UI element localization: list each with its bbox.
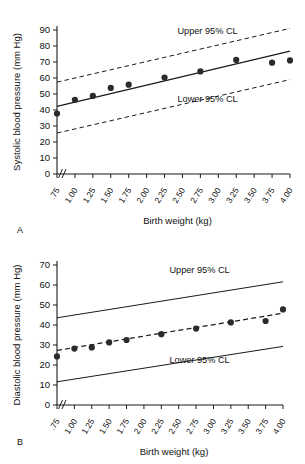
y-tick-label: 60	[39, 279, 50, 290]
y-tick-label: 50	[39, 299, 50, 310]
data-point	[158, 331, 164, 337]
x-tick-label: 3.50	[242, 185, 259, 204]
y-tick-label: 0	[45, 168, 50, 179]
y-tick-label: 70	[39, 259, 50, 270]
annotation-label: Upper 95% CL	[177, 26, 237, 36]
y-tick-label: 30	[39, 339, 50, 350]
x-tick-label: 1.00	[62, 185, 79, 204]
y-tick-label: 60	[39, 72, 50, 83]
x-tick-label: 1.50	[98, 185, 115, 204]
y-axis-label: Diastolic blood pressure (mm Hg)	[11, 265, 22, 406]
data-point	[89, 344, 95, 350]
data-point	[108, 85, 114, 91]
x-tick-label: 2.25	[149, 416, 166, 435]
y-tick-label: 30	[39, 120, 50, 131]
data-point	[280, 306, 286, 312]
x-axis-label: Birth weight (kg)	[143, 215, 212, 226]
x-tick-label: 1.25	[79, 416, 96, 435]
series-line-upper-95-cl	[57, 282, 283, 318]
y-tick-label: 20	[39, 359, 50, 370]
data-point	[263, 318, 269, 324]
data-point	[269, 60, 275, 66]
x-tick-label: 2.75	[184, 416, 201, 435]
data-point	[123, 337, 129, 343]
y-tick-label: 50	[39, 88, 50, 99]
y-axis-label: Systolic blood pressure (mm Hg)	[11, 33, 22, 171]
y-tick-label: 10	[39, 152, 50, 163]
x-tick-label: 3.50	[236, 416, 253, 435]
annotation-label: Upper 95% CL	[169, 265, 229, 275]
x-tick-label: 3.75	[253, 416, 270, 435]
data-point	[71, 346, 77, 352]
panel-a-systolic: 0102030405060708090.751.001.251.501.752.…	[0, 0, 305, 232]
x-tick-label: 2.50	[166, 416, 183, 435]
x-tick-label: 1.75	[114, 416, 131, 435]
systolic-chart: 0102030405060708090.751.001.251.501.752.…	[0, 0, 305, 232]
y-tick-label: 40	[39, 104, 50, 115]
x-tick-label: 1.25	[80, 185, 97, 204]
x-tick-label: .75	[47, 185, 62, 200]
y-tick-label: 80	[39, 40, 50, 51]
x-tick-label: 2.00	[131, 416, 148, 435]
y-tick-label: 70	[39, 56, 50, 67]
data-point	[72, 97, 78, 103]
x-tick-label: 1.75	[116, 185, 133, 204]
x-tick-label: .75	[47, 416, 62, 431]
panel-b-diastolic: 010203040506070.751.001.251.501.752.002.…	[0, 232, 305, 464]
data-point	[54, 353, 60, 359]
x-tick-label: 2.75	[188, 185, 205, 204]
x-tick-label: 3.25	[218, 416, 235, 435]
y-tick-label: 40	[39, 319, 50, 330]
y-tick-label: 0	[45, 399, 50, 410]
x-tick-label: 1.00	[62, 416, 79, 435]
y-tick-label: 90	[39, 24, 50, 35]
data-point	[197, 68, 203, 74]
x-tick-label: 3.25	[224, 185, 241, 204]
x-tick-label: 4.00	[271, 416, 288, 435]
x-tick-label: 3.00	[206, 185, 223, 204]
series-line-lower-95-cl	[57, 80, 290, 133]
x-axis-label: Birth weight (kg)	[140, 446, 209, 457]
data-point	[126, 82, 132, 88]
x-tick-label: 3.00	[201, 416, 218, 435]
x-tick-label: 1.50	[97, 416, 114, 435]
x-tick-label: 2.50	[170, 185, 187, 204]
x-tick-label: 4.00	[278, 185, 295, 204]
panel-letter-b: B	[17, 437, 23, 447]
data-point	[228, 319, 234, 325]
data-point	[90, 93, 96, 99]
y-tick-label: 10	[39, 379, 50, 390]
data-point	[161, 74, 167, 80]
data-point	[106, 339, 112, 345]
diastolic-chart: 010203040506070.751.001.251.501.752.002.…	[0, 232, 305, 464]
annotation-label: Lower 95% CL	[177, 94, 237, 104]
data-point	[54, 110, 60, 116]
x-tick-label: 2.00	[134, 185, 151, 204]
data-point	[287, 57, 293, 63]
x-tick-label: 3.75	[260, 185, 277, 204]
x-tick-label: 2.25	[152, 185, 169, 204]
y-tick-label: 20	[39, 136, 50, 147]
series-line-upper-95-cl	[57, 28, 290, 82]
data-point	[233, 57, 239, 63]
data-point	[193, 326, 199, 332]
annotation-label: Lower 95% CL	[169, 355, 229, 365]
